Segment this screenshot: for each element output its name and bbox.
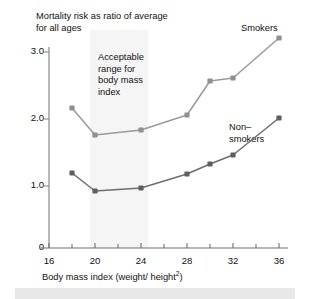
x-axis-title: Body mass index (weight/ height2) <box>42 272 183 282</box>
chart-plot <box>0 0 310 299</box>
x-axis-title-close: ) <box>180 272 183 282</box>
x-axis-title-main: Body mass index (weight/ height <box>42 272 176 282</box>
series-markers-smokers <box>69 35 281 137</box>
series-markers-nonsmokers <box>69 115 281 193</box>
series-line-nonsmokers <box>72 118 279 191</box>
chart-figure: Mortality risk as ratio of average for a… <box>0 0 310 299</box>
x-axis-ticks <box>49 243 279 248</box>
bottom-bar <box>15 288 295 299</box>
y-axis-ticks <box>44 52 49 186</box>
series-line-smokers <box>72 38 279 135</box>
